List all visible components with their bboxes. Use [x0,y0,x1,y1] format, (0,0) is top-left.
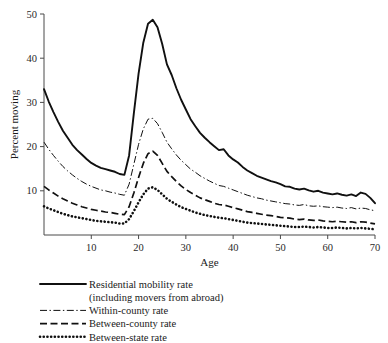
y-axis-title: Percent moving [8,89,20,159]
y-tick-label: 40 [27,53,38,64]
x-tick-label: 50 [275,242,286,253]
percent-moving-by-age-chart: 102030405010203040506070AgePercent movin… [0,0,388,343]
y-tick-label: 20 [27,141,38,152]
x-tick-label: 20 [133,242,144,253]
legend-label-continuation: (including movers from abroad) [89,292,224,304]
legend-label: Within-county rate [89,305,169,316]
series-line-residential-mobility-rate [44,20,375,203]
y-tick-label: 10 [27,185,38,196]
x-axis-title: Age [200,256,218,268]
legend-label: Between-state rate [89,332,167,343]
x-tick-label: 40 [228,242,239,253]
legend-label: Between-county rate [89,318,177,329]
legend-label: Residential mobility rate [89,279,193,290]
x-tick-label: 70 [370,242,381,253]
y-tick-label: 30 [27,97,38,108]
chart-container: 102030405010203040506070AgePercent movin… [0,0,388,343]
x-tick-label: 60 [322,242,333,253]
x-tick-label: 30 [181,242,192,253]
x-tick-label: 10 [86,242,97,253]
y-tick-label: 50 [27,9,38,20]
